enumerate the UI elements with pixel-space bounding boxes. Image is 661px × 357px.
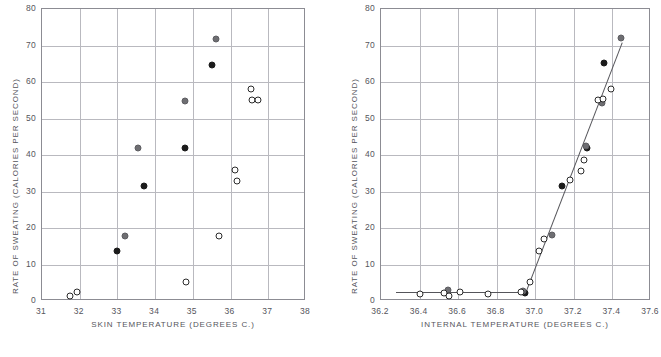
x-axis-tick-label: 33	[111, 306, 121, 316]
data-point-filled-gray	[618, 35, 625, 42]
gridline-vertical	[535, 9, 536, 299]
gridline-vertical	[574, 9, 575, 299]
y-axis-tick-label: 80	[365, 3, 375, 13]
data-point-open	[183, 279, 190, 286]
data-point-filled-gray	[583, 143, 590, 150]
data-point-open	[567, 177, 574, 184]
gridline-horizontal	[42, 82, 304, 83]
x-axis-title: SKIN TEMPERATURE (DEGREES C.)	[91, 320, 255, 329]
gridline-vertical	[193, 9, 194, 299]
y-axis-tick-label: 60	[26, 76, 36, 86]
gridline-vertical	[268, 9, 269, 299]
gridline-vertical	[155, 9, 156, 299]
gridline-horizontal	[42, 265, 304, 266]
plot-area-left	[41, 8, 305, 300]
panel-skin-temperature: 313233343536373801020304050607080SKIN TE…	[0, 0, 330, 357]
data-point-open	[248, 86, 255, 93]
gridline-vertical	[80, 9, 81, 299]
data-point-filled-gray	[135, 144, 142, 151]
y-axis-tick-label: 10	[365, 259, 375, 269]
gridline-horizontal	[42, 228, 304, 229]
x-axis-title: INTERNAL TEMPERATURE (DEGREES C.)	[421, 320, 609, 329]
gridline-horizontal	[381, 119, 649, 120]
data-point-filled-gray	[213, 35, 220, 42]
data-point-filled-black	[600, 60, 607, 67]
data-point-filled-black	[182, 144, 189, 151]
plot-area-right	[380, 8, 650, 300]
gridline-horizontal	[381, 192, 649, 193]
y-axis-tick-label: 10	[26, 259, 36, 269]
data-point-open	[416, 291, 423, 298]
y-axis-tick-label: 0	[370, 295, 375, 305]
gridline-horizontal	[381, 155, 649, 156]
y-axis-tick-label: 20	[365, 222, 375, 232]
y-axis-tick-label: 20	[26, 222, 36, 232]
data-point-open	[526, 279, 533, 286]
x-axis-tick-label: 36.4	[410, 306, 428, 316]
y-axis-tick-label: 70	[365, 40, 375, 50]
figure-two-panel-scatter: 313233343536373801020304050607080SKIN TE…	[0, 0, 661, 357]
y-axis-tick-label: 50	[26, 113, 36, 123]
data-point-filled-black	[559, 183, 566, 190]
data-point-open	[485, 291, 492, 298]
y-axis-tick-label: 40	[365, 149, 375, 159]
data-point-open	[517, 288, 524, 295]
data-point-filled-black	[114, 247, 121, 254]
data-point-filled-black	[140, 183, 147, 190]
x-axis-tick-label: 38	[300, 306, 310, 316]
gridline-horizontal	[381, 82, 649, 83]
gridline-horizontal	[381, 228, 649, 229]
data-point-open	[599, 95, 606, 102]
data-point-open	[216, 233, 223, 240]
y-axis-tick-label: 40	[26, 149, 36, 159]
gridline-vertical	[458, 9, 459, 299]
y-axis-tick-label: 0	[31, 295, 36, 305]
x-axis-tick-label: 36.6	[448, 306, 466, 316]
panel-internal-temperature: 36.236.436.636.837.037.237.437.601020304…	[330, 0, 660, 357]
data-point-open	[540, 235, 547, 242]
x-axis-tick-label: 37.6	[641, 306, 659, 316]
y-axis-tick-label: 30	[26, 186, 36, 196]
gridline-horizontal	[42, 155, 304, 156]
x-axis-tick-label: 32	[74, 306, 84, 316]
data-point-open	[577, 168, 584, 175]
data-point-open	[457, 288, 464, 295]
data-point-filled-gray	[182, 98, 189, 105]
gridline-horizontal	[381, 265, 649, 266]
x-axis-tick-label: 37	[262, 306, 272, 316]
data-point-filled-gray	[548, 232, 555, 239]
y-axis-tick-label: 80	[26, 3, 36, 13]
data-point-open	[581, 156, 588, 163]
y-axis-tick-label: 70	[26, 40, 36, 50]
gridline-horizontal	[381, 46, 649, 47]
y-axis-tick-label: 60	[365, 76, 375, 86]
gridline-vertical	[420, 9, 421, 299]
gridline-vertical	[117, 9, 118, 299]
data-point-open	[255, 97, 262, 104]
x-axis-tick-label: 34	[149, 306, 159, 316]
x-axis-tick-label: 36	[225, 306, 235, 316]
gridline-horizontal	[42, 119, 304, 120]
x-axis-tick-label: 37.0	[525, 306, 543, 316]
data-point-open	[73, 289, 80, 296]
data-point-filled-black	[208, 62, 215, 69]
y-axis-title: RATE OF SWEATING (CALORIES PER SECOND)	[350, 78, 359, 294]
data-point-open	[232, 166, 239, 173]
x-axis-tick-label: 36.8	[487, 306, 505, 316]
y-axis-tick-label: 50	[365, 113, 375, 123]
x-axis-tick-label: 36.2	[371, 306, 389, 316]
x-axis-tick-label: 31	[36, 306, 46, 316]
gridline-vertical	[231, 9, 232, 299]
x-axis-tick-label: 37.2	[564, 306, 582, 316]
x-axis-tick-label: 35	[187, 306, 197, 316]
figure-caption	[0, 349, 661, 357]
gridline-horizontal	[42, 192, 304, 193]
y-axis-title: RATE OF SWEATING (CALORIES PER SECOND)	[11, 78, 20, 294]
gridline-horizontal	[42, 46, 304, 47]
gridline-vertical	[612, 9, 613, 299]
gridline-vertical	[497, 9, 498, 299]
data-point-open	[607, 85, 614, 92]
data-point-open	[234, 177, 241, 184]
data-point-open	[446, 292, 453, 299]
data-point-filled-gray	[121, 233, 128, 240]
